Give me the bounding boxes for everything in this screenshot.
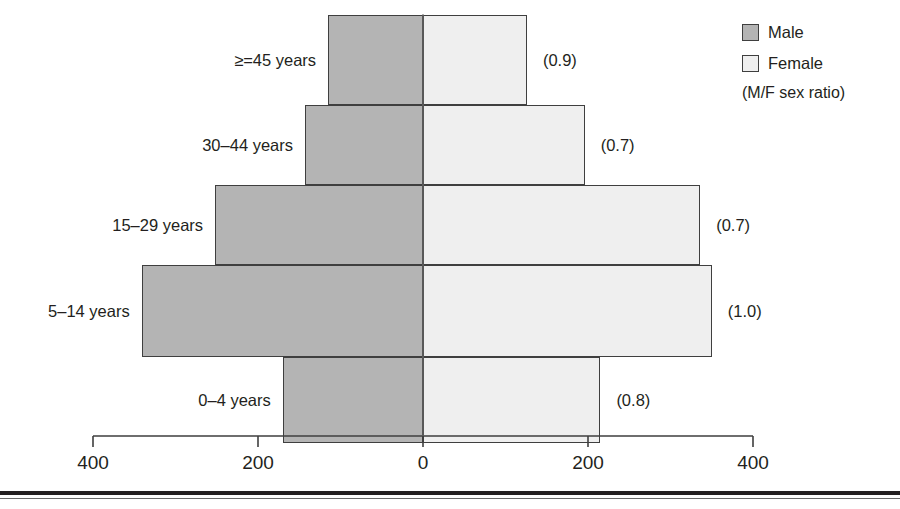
sex-ratio-label: (0.8): [616, 391, 650, 410]
bar-segment-female[interactable]: [423, 185, 700, 265]
footer-rule: [0, 491, 900, 495]
pyramid-bar-row: [0, 265, 900, 357]
bar-segment-female[interactable]: [423, 105, 585, 185]
population-pyramid-figure: ≥=45 years(0.9)30–44 years(0.7)15–29 yea…: [0, 0, 900, 509]
bar-segment-female[interactable]: [423, 265, 712, 357]
age-group-label: 0–4 years: [0, 391, 271, 410]
bar-segment-female[interactable]: [423, 357, 600, 443]
sex-ratio-label: (0.7): [601, 136, 635, 155]
age-group-label: 5–14 years: [0, 302, 130, 321]
legend-item-male: Male: [742, 22, 892, 42]
age-group-label: 15–29 years: [0, 216, 203, 235]
legend-swatch-female-icon: [742, 55, 759, 72]
bar-segment-male[interactable]: [215, 185, 423, 265]
bar-segment-male[interactable]: [142, 265, 423, 357]
legend-label-female: Female: [768, 54, 823, 73]
age-group-label: 30–44 years: [0, 136, 293, 155]
sex-ratio-label: (0.7): [716, 216, 750, 235]
legend-item-female: Female: [742, 53, 892, 73]
age-group-label: ≥=45 years: [0, 51, 316, 70]
legend-note-sex-ratio: (M/F sex ratio): [742, 84, 892, 102]
chart-legend: Male Female (M/F sex ratio): [742, 22, 892, 102]
bar-segment-male[interactable]: [305, 105, 423, 185]
bar-segment-male[interactable]: [328, 15, 423, 105]
legend-swatch-male-icon: [742, 24, 759, 41]
sex-ratio-label: (0.9): [543, 51, 577, 70]
footer-rule-thin: [0, 498, 900, 499]
bar-segment-male[interactable]: [283, 357, 423, 443]
sex-ratio-label: (1.0): [728, 302, 762, 321]
bar-segment-female[interactable]: [423, 15, 527, 105]
legend-label-male: Male: [768, 23, 804, 42]
